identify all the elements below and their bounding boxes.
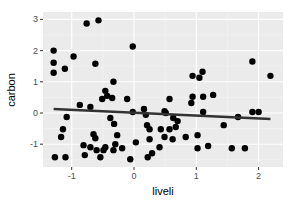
data-point xyxy=(92,61,98,67)
data-point xyxy=(50,47,56,53)
data-point xyxy=(194,145,200,151)
x-tick-label: 2 xyxy=(256,171,261,181)
data-point xyxy=(199,69,205,75)
x-axis-title: liveli xyxy=(152,185,173,197)
data-point xyxy=(107,115,113,121)
x-tick-label: 0 xyxy=(131,171,136,181)
y-axis-title: carbon xyxy=(5,73,17,107)
data-point xyxy=(77,102,83,108)
data-point xyxy=(242,145,248,151)
data-point xyxy=(267,73,273,79)
data-point xyxy=(58,134,64,140)
data-point xyxy=(102,144,108,150)
data-point xyxy=(189,94,195,100)
data-point xyxy=(156,144,162,150)
data-point xyxy=(112,141,118,147)
x-axis: -1012 xyxy=(68,167,261,181)
data-point xyxy=(146,126,152,132)
data-point xyxy=(141,106,147,112)
data-point xyxy=(111,121,117,127)
y-tick-label: 0 xyxy=(33,108,38,118)
data-point xyxy=(110,79,116,85)
data-point xyxy=(64,114,70,120)
data-point xyxy=(146,136,152,142)
data-point xyxy=(60,126,66,132)
data-point xyxy=(92,135,98,141)
scatter-chart: -1012 -10123 liveli carbon xyxy=(0,0,294,205)
data-point xyxy=(169,136,175,142)
data-point xyxy=(149,150,155,156)
data-point xyxy=(82,152,88,158)
y-tick-label: -1 xyxy=(30,139,38,149)
data-point xyxy=(255,109,261,115)
data-point xyxy=(110,147,116,153)
data-point xyxy=(62,154,68,160)
data-point xyxy=(62,65,68,71)
data-point xyxy=(200,94,206,100)
data-point xyxy=(95,17,101,23)
data-point xyxy=(194,132,200,138)
x-tick-label: 1 xyxy=(194,171,199,181)
data-point xyxy=(133,139,139,145)
data-point xyxy=(173,124,179,130)
data-point xyxy=(80,142,86,148)
data-point xyxy=(119,145,125,151)
y-tick-label: 2 xyxy=(33,46,38,56)
data-point xyxy=(183,134,189,140)
data-point xyxy=(166,126,172,132)
data-point xyxy=(114,132,120,138)
data-point xyxy=(221,122,227,128)
data-point xyxy=(87,144,93,150)
data-point xyxy=(50,60,56,66)
data-point xyxy=(109,95,115,101)
data-point xyxy=(200,109,206,115)
data-point xyxy=(127,156,133,162)
y-tick-label: 1 xyxy=(33,77,38,87)
data-point xyxy=(196,75,202,81)
data-point xyxy=(97,154,103,160)
x-tick-label: -1 xyxy=(68,171,76,181)
data-point xyxy=(229,145,235,151)
data-point xyxy=(188,100,194,106)
data-point xyxy=(93,147,99,153)
y-tick-label: 3 xyxy=(33,14,38,24)
data-point xyxy=(166,96,172,102)
data-point xyxy=(249,109,255,115)
data-point xyxy=(249,58,255,64)
data-point xyxy=(124,96,130,102)
data-point xyxy=(70,53,76,59)
data-point xyxy=(210,92,216,98)
data-point xyxy=(130,43,136,49)
data-point xyxy=(83,20,89,26)
data-point xyxy=(52,154,58,160)
y-axis: -10123 xyxy=(30,14,43,149)
data-point xyxy=(161,134,167,140)
data-point xyxy=(50,70,56,76)
data-point xyxy=(205,143,211,149)
data-point xyxy=(158,126,164,132)
data-point xyxy=(99,96,105,102)
data-point xyxy=(189,73,195,79)
